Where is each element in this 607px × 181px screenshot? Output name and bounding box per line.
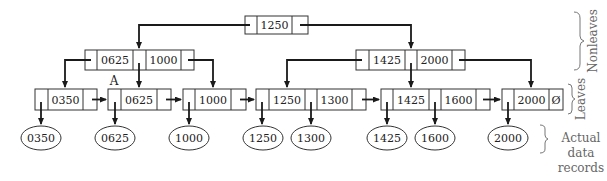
- record-4: 1250: [243, 126, 283, 150]
- record-8-key: 2000: [494, 132, 522, 145]
- nonleaves-brace-icon: [574, 12, 584, 70]
- leaf-5-key-1: 1425: [397, 94, 425, 107]
- b-plus-tree-diagram: 1250 0625 1000 1425 2000 0350 0625: [0, 0, 607, 181]
- leaf-5-key-2: 1600: [445, 94, 473, 107]
- pointer-to-leaf-6: [459, 60, 531, 87]
- leaf-6-key: 2000: [518, 94, 546, 107]
- leaf-1-key: 0350: [52, 94, 80, 107]
- root-key: 1250: [261, 19, 289, 32]
- root-node: 1250: [245, 16, 308, 34]
- record-2: 0625: [95, 126, 135, 150]
- leaves-label: Leaves: [574, 78, 588, 120]
- nonleaf-right-key-2: 2000: [421, 54, 449, 67]
- record-1-key: 0350: [27, 132, 55, 145]
- record-4-key: 1250: [249, 132, 277, 145]
- null-pointer-icon: Ø: [551, 94, 560, 107]
- records-brace-icon: [540, 125, 548, 153]
- leaf-2-key: 0625: [125, 94, 153, 107]
- leaf-2: 0625: [108, 89, 171, 110]
- root-left-pointer: [139, 25, 250, 48]
- records-label-line-3: records: [558, 161, 604, 175]
- record-5: 1300: [291, 126, 331, 150]
- root-right-pointer: [300, 25, 411, 48]
- record-2-key: 0625: [101, 132, 129, 145]
- record-8: 2000: [488, 126, 528, 150]
- nonleaf-left-key-1: 0625: [101, 54, 129, 67]
- leaf-4-key-2: 1300: [321, 94, 349, 107]
- nonleaves-label: Nonleaves: [586, 9, 600, 73]
- record-3-key: 1000: [175, 132, 203, 145]
- record-5-key: 1300: [297, 132, 325, 145]
- pointer-to-leaf-4: [287, 60, 362, 87]
- leaf-3: 1000: [183, 89, 246, 110]
- record-7-key: 1600: [421, 132, 449, 145]
- nonleaf-right-key-1: 1425: [373, 54, 401, 67]
- records-label-line-2: data: [568, 146, 595, 160]
- record-6: 1425: [367, 126, 407, 150]
- record-6-key: 1425: [373, 132, 401, 145]
- nonleaf-left-key-2: 1000: [150, 54, 178, 67]
- record-1: 0350: [21, 126, 61, 150]
- records-label-line-1: Actual: [561, 131, 601, 145]
- node-label-a: A: [109, 74, 119, 88]
- leaf-1: 0350: [35, 89, 97, 110]
- record-7: 1600: [415, 126, 455, 150]
- leaf-4-key-1: 1250: [273, 94, 301, 107]
- record-3: 1000: [169, 126, 209, 150]
- leaf-6: 2000 Ø: [502, 89, 563, 110]
- leaf-3-key: 1000: [199, 94, 227, 107]
